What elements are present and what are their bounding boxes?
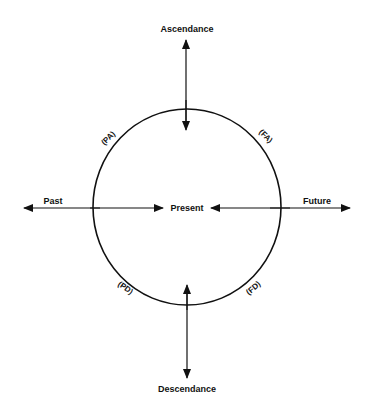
time-direction-diagram: Ascendance Descendance Past Future Prese… xyxy=(0,0,369,416)
quadrant-label-fa: (FA) xyxy=(257,128,275,146)
past-label: Past xyxy=(43,196,62,206)
ascendance-label: Ascendance xyxy=(160,24,213,34)
descendance-label: Descendance xyxy=(158,384,216,394)
present-label: Present xyxy=(170,203,203,213)
future-label: Future xyxy=(303,196,331,206)
quadrant-label-pd: (PD) xyxy=(116,280,135,297)
